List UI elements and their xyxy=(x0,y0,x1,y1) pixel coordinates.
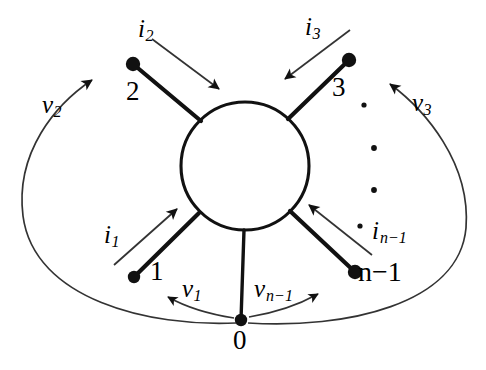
voltage-subscript: 1 xyxy=(194,287,202,304)
current-label-i1: i1 xyxy=(104,222,119,250)
current-symbol: i xyxy=(372,217,379,244)
voltage-symbol: v xyxy=(412,89,423,116)
ellipsis-dot xyxy=(371,145,377,151)
arrow-i1 xyxy=(114,209,177,265)
arrow-i2 xyxy=(152,39,219,89)
node-label-n-1: n−1 xyxy=(358,258,402,286)
node-label-1: 1 xyxy=(150,258,164,285)
spoke-node0 xyxy=(241,230,244,320)
node-label-3: 3 xyxy=(332,74,346,101)
spoke-node-n-1 xyxy=(290,211,355,272)
voltage-subscript: 3 xyxy=(424,101,432,118)
ellipsis-dot xyxy=(361,102,366,107)
voltage-label-v-n-1: vn−1 xyxy=(254,276,293,304)
current-symbol: i xyxy=(305,13,312,40)
current-subscript: 2 xyxy=(145,27,153,44)
node-label-0: 0 xyxy=(233,327,247,354)
ellipsis-dot xyxy=(357,223,362,228)
voltage-symbol: v xyxy=(42,91,53,118)
arrow-i-n-1 xyxy=(309,205,372,255)
node-dot-3 xyxy=(342,53,356,67)
figure-canvas: 0 1 2 3 n−1 i1 i2 i3 in−1 v1 v2 v3 vn−1 xyxy=(0,0,486,370)
diagram-svg xyxy=(0,0,486,370)
current-label-i2: i2 xyxy=(138,16,153,44)
current-symbol: i xyxy=(138,15,145,42)
current-label-i-n-1: in−1 xyxy=(372,218,407,246)
voltage-label-v3: v3 xyxy=(412,90,432,118)
voltage-symbol: v xyxy=(254,275,265,302)
node-label-2: 2 xyxy=(126,78,140,105)
voltage-label-v2: v2 xyxy=(42,92,62,120)
spoke-node1 xyxy=(134,213,199,277)
current-subscript: 1 xyxy=(111,233,119,250)
current-subscript: 3 xyxy=(312,25,320,42)
spoke-node2 xyxy=(133,64,201,121)
current-subscript: n−1 xyxy=(380,229,407,246)
current-symbol: i xyxy=(104,221,111,248)
node-dot-2 xyxy=(126,57,140,71)
voltage-label-v1: v1 xyxy=(182,276,202,304)
ellipsis-dot xyxy=(371,187,377,193)
voltage-subscript: 2 xyxy=(54,103,62,120)
voltage-subscript: n−1 xyxy=(266,287,293,304)
node-dot-1 xyxy=(128,271,140,283)
voltage-symbol: v xyxy=(182,275,193,302)
current-label-i3: i3 xyxy=(305,14,320,42)
